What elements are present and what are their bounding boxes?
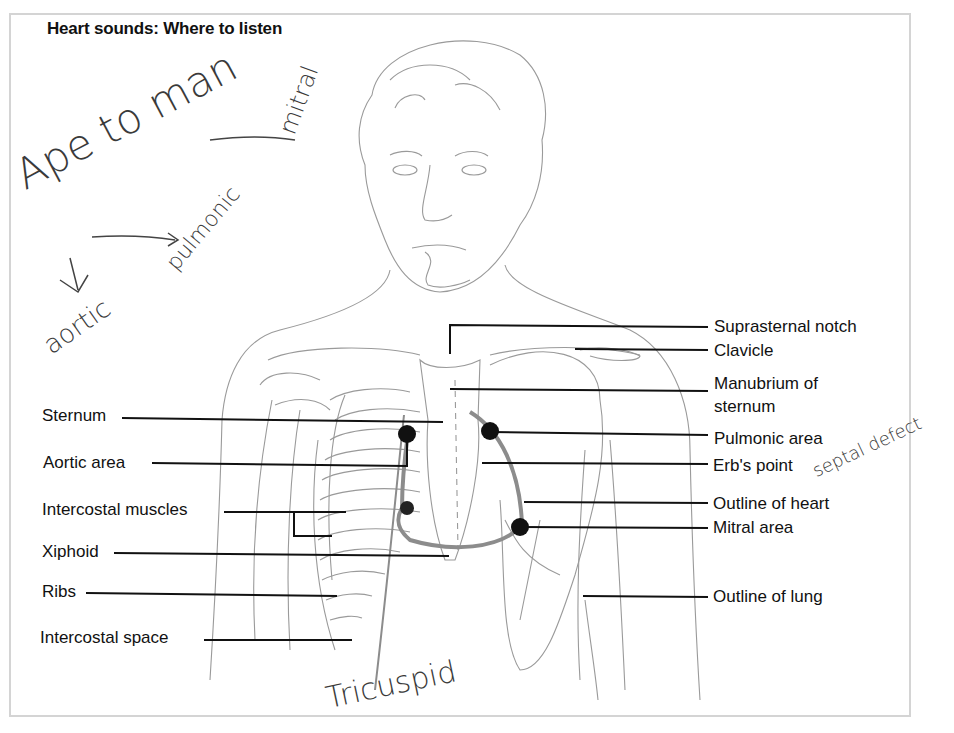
hair-icon: [390, 65, 500, 110]
label-xiphoid: Xiphoid: [42, 542, 99, 562]
page-title: Heart sounds: Where to listen: [47, 19, 282, 39]
label-suprasternal-notch: Suprasternal notch: [714, 317, 857, 337]
aortic-area-dot: [398, 425, 416, 443]
label-outline-of-heart: Outline of heart: [713, 494, 829, 514]
nose: [423, 165, 452, 221]
label-manubrium: Manubrium of: [714, 374, 818, 394]
label-clavicle: Clavicle: [714, 341, 774, 361]
abdomen-lines: [520, 520, 598, 700]
tricuspid-pointer-line: [375, 415, 404, 690]
label-pulmonic-area: Pulmonic area: [714, 429, 823, 449]
tricuspid-area-dot: [400, 501, 414, 515]
label-manubrium-line2: sternum: [714, 397, 775, 417]
label-sternum: Sternum: [42, 406, 106, 426]
label-ribs: Ribs: [42, 582, 76, 602]
label-aortic-area: Aortic area: [43, 453, 125, 473]
midline: [455, 380, 458, 550]
head-outline: [359, 41, 545, 292]
pulmonic-area-dot: [481, 422, 499, 440]
scapula: [260, 373, 330, 410]
label-intercostal-muscles: Intercostal muscles: [42, 500, 188, 520]
left-eye-icon: [393, 165, 417, 175]
label-erbs-point: Erb's point: [713, 456, 793, 476]
body-outline: [210, 41, 700, 700]
mouth-chin: [412, 245, 470, 287]
right-eye-icon: [462, 165, 486, 175]
left-shoulder-arm: [210, 270, 390, 680]
label-outline-of-lung: Outline of lung: [713, 587, 823, 607]
right-shoulder-arm: [505, 265, 700, 700]
label-mitral-area: Mitral area: [713, 518, 793, 538]
eyebrows: [390, 151, 488, 156]
label-intercostal-space: Intercostal space: [40, 628, 169, 648]
lung-outline: [490, 352, 603, 670]
mitral-area-dot: [511, 518, 529, 536]
